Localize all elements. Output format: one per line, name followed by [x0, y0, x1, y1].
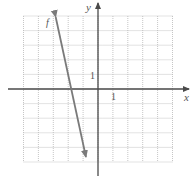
x-axis-label: x — [183, 91, 189, 103]
function-line-f — [56, 17, 86, 157]
y-tick-label: 1 — [90, 70, 95, 81]
function-label-f: f — [46, 17, 50, 28]
graph: x y 1 1 f — [0, 0, 191, 180]
y-axis-label: y — [85, 1, 91, 13]
x-tick-label: 1 — [111, 91, 116, 102]
